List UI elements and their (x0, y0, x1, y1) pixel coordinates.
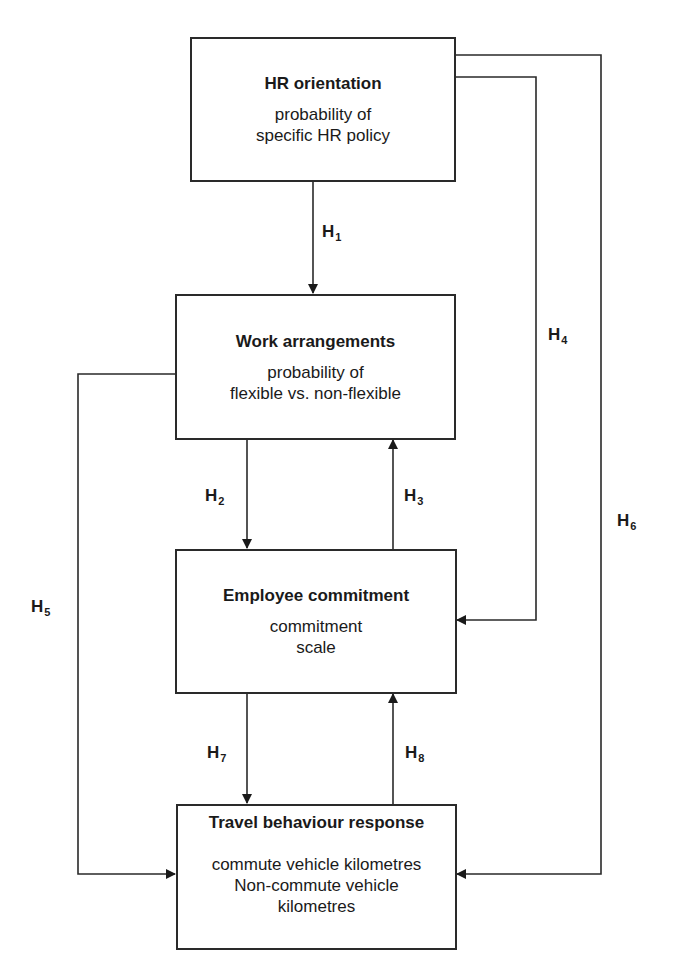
label-h8: H8 (405, 743, 424, 768)
box-work-arrangements: Work arrangements probability of flexibl… (175, 294, 456, 440)
box-description: probability of specific HR policy (256, 104, 390, 146)
desc-line: commitment (270, 616, 363, 637)
desc-line: commute vehicle kilometres (212, 854, 422, 875)
desc-line: probability of (256, 104, 390, 125)
box-title: Travel behaviour response (209, 812, 424, 833)
box-description: commitment scale (270, 616, 363, 658)
box-title: HR orientation (264, 73, 381, 94)
box-description: commute vehicle kilometres Non-commute v… (212, 854, 422, 917)
desc-line: kilometres (212, 896, 422, 917)
arrow-h5 (78, 374, 175, 874)
label-h7: H7 (207, 743, 226, 768)
desc-line: specific HR policy (256, 125, 390, 146)
label-h5: H5 (31, 597, 50, 622)
desc-line: flexible vs. non-flexible (230, 383, 401, 404)
box-hr-orientation: HR orientation probability of specific H… (190, 37, 456, 182)
label-h4: H4 (548, 325, 567, 350)
label-h1: H1 (322, 222, 341, 247)
box-travel-behaviour-response: Travel behaviour response commute vehicl… (176, 804, 457, 950)
desc-line: scale (270, 637, 363, 658)
arrow-h6 (455, 55, 601, 874)
label-h3: H3 (404, 486, 423, 511)
label-h6: H6 (617, 511, 636, 536)
arrow-h4 (455, 77, 536, 620)
box-title: Work arrangements (236, 331, 395, 352)
desc-line: probability of (230, 362, 401, 383)
box-employee-commitment: Employee commitment commitment scale (175, 549, 457, 694)
box-description: probability of flexible vs. non-flexible (230, 362, 401, 404)
desc-line: Non-commute vehicle (212, 875, 422, 896)
label-h2: H2 (205, 486, 224, 511)
box-title: Employee commitment (223, 585, 409, 606)
